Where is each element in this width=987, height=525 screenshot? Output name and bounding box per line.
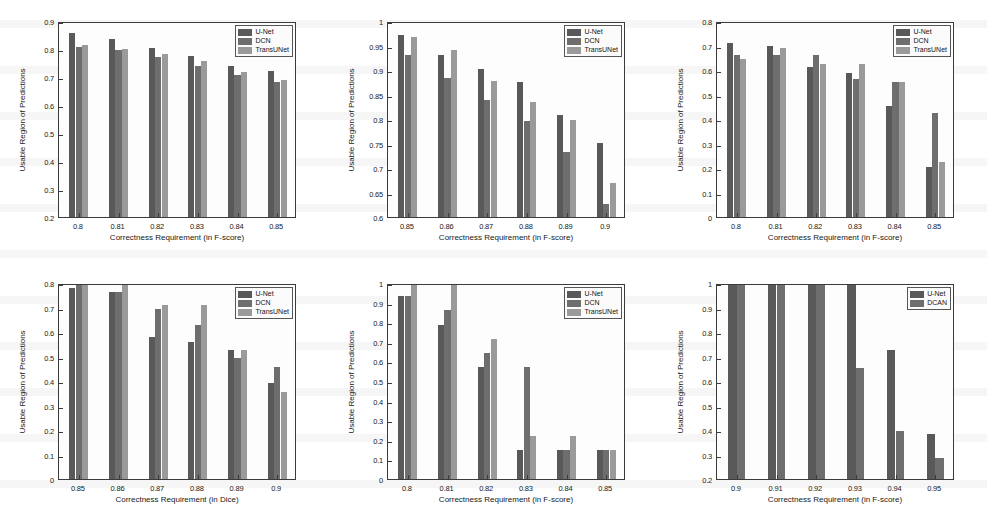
y-tick-mark <box>388 48 392 49</box>
bar-u-net-0.9 <box>597 143 603 217</box>
y-tick-mark <box>388 442 392 443</box>
y-tick-mark <box>59 23 63 24</box>
bar-transunet-0.82 <box>162 54 168 217</box>
bar-transunet-0.83 <box>530 436 536 479</box>
y-tick-label: 0.2 <box>702 476 712 485</box>
bar-dcn-0.81 <box>773 55 779 217</box>
bar-transunet-0.85 <box>411 37 417 217</box>
bar-u-net-0.85 <box>69 288 75 479</box>
y-tick-label: 0.4 <box>373 397 383 406</box>
bar-transunet-0.85 <box>610 450 616 479</box>
bar-dcn-0.83 <box>853 79 859 217</box>
y-tick-label: 0.3 <box>373 417 383 426</box>
legend-swatch-icon <box>238 29 252 36</box>
x-tick-label: 0.87 <box>150 484 164 493</box>
x-tick-label: 0.95 <box>927 484 941 493</box>
x-axis-label: Correctness Requirement (in F-score) <box>439 233 573 242</box>
y-tick-label: 0.7 <box>44 304 54 313</box>
x-tick-label: 0.9 <box>600 222 610 231</box>
chart-panel-bottom-middle: 00.10.20.30.40.50.60.70.80.910.80.810.82… <box>329 262 658 525</box>
bar-dcn-0.85 <box>932 113 938 217</box>
bar-transunet-0.86 <box>451 50 457 217</box>
legend-swatch-icon <box>567 300 581 307</box>
bar-u-net-0.85 <box>597 450 603 479</box>
y-tick-mark <box>717 334 721 335</box>
y-tick-mark <box>388 422 392 423</box>
bar-dcn-0.86 <box>115 292 121 479</box>
y-tick-label: 0.6 <box>373 214 383 223</box>
legend-swatch-icon <box>238 300 252 307</box>
y-tick-label: 0.8 <box>44 280 54 289</box>
x-tick-mark <box>408 213 409 217</box>
x-tick-mark <box>277 475 278 479</box>
bar-u-net-0.84 <box>886 106 892 217</box>
y-tick-mark <box>717 432 721 433</box>
bar-dcn-0.81 <box>444 310 450 479</box>
plot-area-bottom-middle: 00.10.20.30.40.50.60.70.80.910.80.810.82… <box>387 284 625 480</box>
x-axis-label: Correctness Requirement (in F-score) <box>110 233 244 242</box>
x-tick-mark <box>448 475 449 479</box>
chart-panel-bottom-left: 00.10.20.30.40.50.60.70.80.850.860.870.8… <box>0 262 329 525</box>
bar-u-net-0.8 <box>727 43 733 217</box>
y-tick-mark <box>59 383 63 384</box>
bar-u-net-0.94 <box>887 350 895 479</box>
y-tick-mark <box>717 457 721 458</box>
legend-item-u-net: U-Net <box>910 290 947 298</box>
y-tick-label: 0.5 <box>44 353 54 362</box>
x-tick-label: 0.93 <box>848 484 862 493</box>
x-tick-mark <box>606 213 607 217</box>
y-axis-label: Usable Region of Predictions <box>676 68 685 171</box>
legend-item-u-net: U-Net <box>567 290 618 298</box>
bar-transunet-0.87 <box>162 305 168 479</box>
x-tick-mark <box>567 213 568 217</box>
legend-item-dcn: DCN <box>238 37 289 45</box>
bar-transunet-0.88 <box>530 102 536 217</box>
legend-label: DCAN <box>927 299 947 307</box>
y-tick-label: 0.4 <box>702 427 712 436</box>
plot-area-top-right: 00.10.20.30.40.50.60.70.80.80.810.820.83… <box>716 22 954 218</box>
bar-dcn-0.82 <box>155 57 161 217</box>
bar-dcan-0.94 <box>896 431 904 479</box>
legend-swatch-icon <box>896 38 910 45</box>
y-tick-label: 0.7 <box>702 353 712 362</box>
y-tick-label: 0.75 <box>369 140 383 149</box>
x-tick-mark <box>79 475 80 479</box>
legend-label: TransUNet <box>913 46 947 54</box>
y-tick-label: 0.2 <box>44 427 54 436</box>
bar-dcan-0.95 <box>935 458 943 479</box>
y-tick-mark <box>717 97 721 98</box>
bar-u-net-0.8 <box>69 33 75 217</box>
y-tick-mark <box>388 195 392 196</box>
x-tick-mark <box>277 213 278 217</box>
x-tick-mark <box>448 213 449 217</box>
x-tick-label: 0.81 <box>440 484 454 493</box>
bar-u-net-0.93 <box>847 284 855 479</box>
x-tick-label: 0.8 <box>731 222 741 231</box>
bar-u-net-0.91 <box>768 284 776 479</box>
bar-dcn-0.86 <box>444 78 450 217</box>
legend-swatch-icon <box>567 29 581 36</box>
y-tick-mark <box>388 403 392 404</box>
bar-transunet-0.81 <box>780 48 786 217</box>
y-tick-mark <box>717 359 721 360</box>
legend-swatch-icon <box>567 47 581 54</box>
bar-transunet-0.88 <box>201 305 207 479</box>
y-tick-label: 0.5 <box>373 378 383 387</box>
legend-swatch-icon <box>238 291 252 298</box>
x-tick-label: 0.85 <box>927 222 941 231</box>
bar-dcn-0.85 <box>405 55 411 217</box>
legend-swatch-icon <box>238 38 252 45</box>
y-tick-label: 0.7 <box>373 338 383 347</box>
x-tick-label: 0.8 <box>402 484 412 493</box>
y-tick-label: 0.4 <box>702 116 712 125</box>
y-axis-label: Usable Region of Predictions <box>18 68 27 171</box>
y-tick-mark <box>717 170 721 171</box>
y-tick-label: 0.4 <box>44 158 54 167</box>
y-tick-mark <box>59 163 63 164</box>
y-tick-mark <box>59 79 63 80</box>
bar-u-net-0.88 <box>517 82 523 217</box>
x-tick-mark <box>527 475 528 479</box>
bar-dcn-0.89 <box>563 152 569 217</box>
x-tick-mark <box>896 475 897 479</box>
x-tick-mark <box>119 213 120 217</box>
